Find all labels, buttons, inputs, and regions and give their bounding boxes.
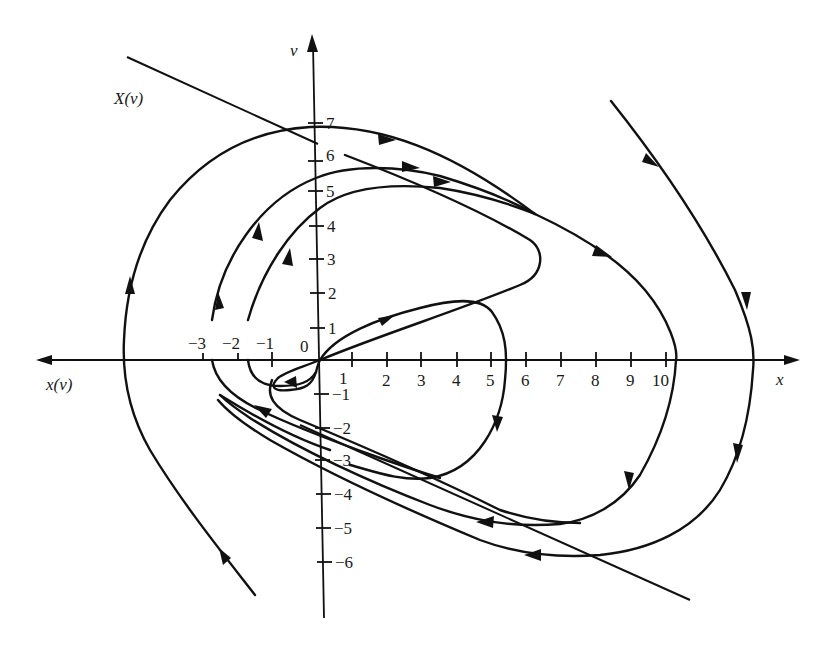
arrowheads [125,134,751,565]
arrow-icon [524,549,541,561]
x-tick-label: 5 [486,371,495,390]
trajectory-outer-right [218,101,754,556]
v-axis-up-arrow-icon [307,34,318,52]
x-axis-left-arrow-icon [36,355,52,365]
x-axis-label: x [775,370,784,389]
trajectory-tongue [320,155,540,360]
trajectory-lower-return [270,380,580,523]
x-tick-label: 8 [591,371,600,390]
v-tick-label: 4 [327,217,336,236]
x-tick-label: 6 [521,371,530,390]
x-axis-left-label: x(ν) [45,375,73,394]
v-axis-label: ν [290,41,298,60]
v-tick-label: 2 [328,284,337,303]
phase-portrait-figure: −3 −2 −1 1 2 3 4 5 6 7 8 9 10 7 6 5 4 3 … [0,0,826,650]
v-tick-label: 7 [326,114,335,133]
trajectory-from-minus-2 [248,186,535,320]
x-tick-label: −2 [222,334,240,353]
x-tick-label: 4 [452,371,461,390]
arrow-icon [476,516,494,528]
phase-portrait-svg: −3 −2 −1 1 2 3 4 5 6 7 8 9 10 7 6 5 4 3 … [0,0,826,650]
v-tick-label: 1 [328,319,337,338]
origin-label: 0 [300,337,309,356]
x-tick-label: −1 [256,334,274,353]
x-tick-label: 10 [652,371,669,390]
line-label: X(ν) [113,89,144,108]
arrow-icon [282,248,293,266]
v-tick-label: 6 [326,146,335,165]
switching-line [127,57,690,600]
v-tick-label: −6 [335,553,353,572]
trajectories [124,101,754,595]
arrow-icon [378,315,395,326]
x-tick-label: 9 [626,371,635,390]
x-axis [36,355,800,365]
arrow-icon [624,471,634,490]
v-tick-label: −4 [334,485,353,504]
x-tick-label: 2 [382,371,391,390]
x-tick-label: 7 [556,371,565,390]
x-tick-label: −3 [188,334,206,353]
v-tick-label: 3 [327,250,336,269]
x-tick-label: 3 [417,371,426,390]
v-tick-label: −5 [334,519,352,538]
trajectory-from-minus-2-lower [248,360,316,386]
v-tick-label: 5 [326,182,335,201]
x-axis-right-arrow-icon [784,355,800,365]
v-axis [307,34,324,618]
v-tick-label: −1 [332,385,350,404]
